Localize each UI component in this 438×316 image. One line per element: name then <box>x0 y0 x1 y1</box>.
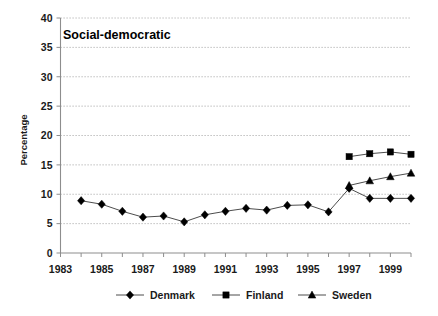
legend-item-denmark[interactable]: Denmark <box>116 289 195 301</box>
y-tick-label-35: 35 <box>41 41 53 53</box>
legend-marker-denmark <box>126 291 133 299</box>
chart-container: 0510152025303540 19831985198719891991199… <box>0 0 438 316</box>
y-tick-label-30: 30 <box>41 71 53 83</box>
data-point-denmark-1988 <box>160 212 167 220</box>
data-point-finland-1997 <box>346 154 352 160</box>
legend-item-sweden[interactable]: Sweden <box>298 289 372 301</box>
y-tick-label-10: 10 <box>41 188 53 200</box>
data-point-finland-1998 <box>367 151 373 157</box>
data-point-denmark-1990 <box>201 211 208 219</box>
legend-marker-finland <box>223 292 229 298</box>
data-point-denmark-1994 <box>284 201 291 209</box>
data-point-denmark-1992 <box>242 204 249 212</box>
x-axis-tick-labels: 198319851987198919911993199519971999 <box>49 263 402 275</box>
data-point-denmark-1984 <box>78 197 85 205</box>
data-point-denmark-1995 <box>304 201 311 209</box>
data-point-denmark-1985 <box>98 200 105 208</box>
y-axis-title-layer: Percentage <box>18 114 29 165</box>
y-tick-label-40: 40 <box>41 12 53 24</box>
data-point-denmark-1998 <box>366 194 373 202</box>
x-tick-label-1995: 1995 <box>296 263 320 275</box>
series-sweden <box>345 169 414 188</box>
legend-label-denmark: Denmark <box>150 289 195 301</box>
y-tick-label-0: 0 <box>47 247 53 259</box>
x-tick-label-1989: 1989 <box>173 263 197 275</box>
chart-legend: DenmarkFinlandSweden <box>116 289 372 301</box>
y-tick-label-20: 20 <box>41 129 53 141</box>
data-point-sweden-2000 <box>407 169 415 176</box>
legend-item-finland[interactable]: Finland <box>212 289 283 301</box>
data-point-denmark-1986 <box>119 207 126 215</box>
chart-title: Social-democratic <box>63 28 171 42</box>
series-finland <box>346 149 414 160</box>
y-axis-tick-labels: 0510152025303540 <box>41 12 53 259</box>
y-tick-label-15: 15 <box>41 159 53 171</box>
x-tick-label-1993: 1993 <box>255 263 279 275</box>
y-tick-label-25: 25 <box>41 100 53 112</box>
x-tick-label-1987: 1987 <box>131 263 155 275</box>
data-point-denmark-1993 <box>263 206 270 214</box>
data-series-layer <box>78 149 415 226</box>
data-point-finland-2000 <box>408 151 414 157</box>
x-tick-label-1991: 1991 <box>214 263 238 275</box>
chart-title-layer: Social-democratic <box>63 28 171 42</box>
data-point-denmark-1987 <box>139 213 146 221</box>
data-point-denmark-2000 <box>407 194 414 202</box>
legend-label-finland: Finland <box>246 289 283 301</box>
axes <box>57 18 412 257</box>
y-axis-title: Percentage <box>18 114 29 165</box>
x-tick-label-1999: 1999 <box>379 263 403 275</box>
data-point-denmark-1991 <box>222 207 229 215</box>
y-tick-label-5: 5 <box>47 217 53 229</box>
data-point-finland-1999 <box>387 149 393 155</box>
series-denmark <box>78 184 415 226</box>
social-democratic-line-chart: 0510152025303540 19831985198719891991199… <box>0 0 438 316</box>
series-line-finland <box>349 152 411 157</box>
data-point-denmark-1989 <box>181 218 188 226</box>
x-tick-label-1997: 1997 <box>337 263 361 275</box>
x-tick-label-1985: 1985 <box>90 263 114 275</box>
legend-label-sweden: Sweden <box>332 289 372 301</box>
data-point-denmark-1999 <box>387 194 394 202</box>
series-line-sweden <box>349 173 411 185</box>
x-tick-label-1983: 1983 <box>49 263 73 275</box>
